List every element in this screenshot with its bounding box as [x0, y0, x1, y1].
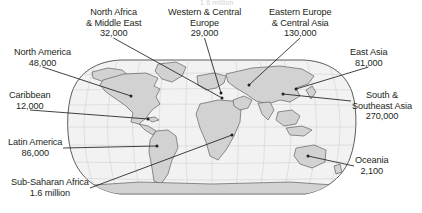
leader-endpoint-north-america [130, 95, 133, 98]
land-antarctica [76, 182, 350, 194]
region-name-line-1: Eastern Europe [269, 7, 331, 18]
region-label-north-africa-middle-east: North Africa& Middle East32,000 [86, 7, 141, 39]
region-name-line-1: East Asia [350, 47, 387, 58]
region-name-line-2: Europe [168, 18, 241, 29]
region-label-oceania: Oceania2,100 [355, 155, 389, 176]
world-map-infographic: 1.6 million North Africa& Middle East32,… [0, 0, 422, 213]
region-label-south-southeast-asia: South &Southeast Asia270,000 [352, 90, 412, 122]
leader-endpoint-eastern-europe-central-asia [248, 84, 251, 87]
region-name-line-1: North Africa [86, 7, 141, 18]
region-label-eastern-europe-central-asia: Eastern Europe& Central Asia130,000 [269, 7, 331, 39]
region-value: 29,000 [168, 28, 241, 39]
leader-endpoint-latin-america [156, 145, 159, 148]
leader-endpoint-sub-saharan-africa [231, 134, 234, 137]
region-name-line-1: Caribbean [9, 90, 51, 101]
region-label-western-central-europe: Western & CentralEurope29,000 [168, 7, 241, 39]
region-name-line-2: Southeast Asia [352, 101, 412, 112]
top-crop-artifact: 1.6 million [200, 0, 234, 6]
region-label-caribbean: Caribbean12,000 [9, 90, 51, 111]
region-value: 1.6 million [11, 188, 89, 199]
region-value: 32,000 [86, 28, 141, 39]
region-label-north-america: North America48,000 [14, 47, 71, 68]
leader-endpoint-oceania [307, 155, 310, 158]
region-value: 86,000 [8, 148, 62, 159]
region-name-line-2: & Middle East [86, 18, 141, 29]
region-value: 81,000 [350, 58, 387, 69]
region-value: 2,100 [355, 166, 389, 177]
region-value: 48,000 [14, 58, 71, 69]
region-value: 270,000 [352, 111, 412, 122]
leader-endpoint-western-central-europe [220, 92, 223, 95]
region-label-east-asia: East Asia81,000 [350, 47, 387, 68]
leader-endpoint-north-africa-middle-east [221, 97, 224, 100]
region-name-line-1: Latin America [8, 137, 62, 148]
region-name-line-1: North America [14, 47, 71, 58]
leader-endpoint-caribbean [147, 118, 150, 121]
region-label-latin-america: Latin America86,000 [8, 137, 62, 158]
region-value: 12,000 [9, 101, 51, 112]
region-label-sub-saharan-africa: Sub-Saharan Africa1.6 million [11, 177, 89, 198]
region-name-line-2: & Central Asia [269, 18, 331, 29]
leader-endpoint-east-asia [295, 88, 298, 91]
region-name-line-1: Western & Central [168, 7, 241, 18]
region-value: 130,000 [269, 28, 331, 39]
region-name-line-1: Oceania [355, 155, 389, 166]
region-name-line-1: Sub-Saharan Africa [11, 177, 89, 188]
region-name-line-1: South & [352, 90, 412, 101]
leader-endpoint-south-southeast-asia [282, 93, 285, 96]
